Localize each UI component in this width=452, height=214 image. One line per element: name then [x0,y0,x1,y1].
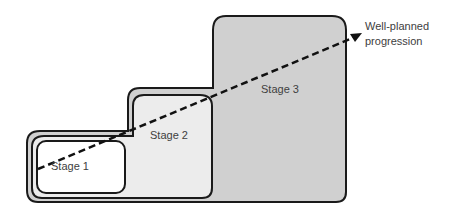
arrow-label-line2: progression [365,35,422,47]
stage-2-label: Stage 2 [150,129,188,141]
stage-3-label: Stage 3 [261,83,299,95]
arrow-label-line1: Well-planned [365,20,429,32]
progression-diagram [0,0,452,214]
arrow-head-icon [350,33,362,42]
stage-1-label: Stage 1 [51,160,89,172]
